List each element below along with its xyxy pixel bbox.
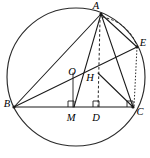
segment-ac — [101, 14, 133, 107]
segment-ad-altitude — [98, 20, 100, 107]
label-point-d: D — [91, 112, 100, 123]
label-point-h: H — [85, 72, 95, 83]
circle-geometry-figure: A B C E O H M D — [0, 0, 150, 158]
geometry-diagram: A B C E O H M D — [0, 0, 150, 158]
label-point-m: M — [66, 112, 77, 123]
vertex-dot-b — [12, 105, 15, 108]
vertex-dot-e — [136, 46, 139, 49]
segment-ec-dotted — [134, 47, 137, 107]
label-point-c: C — [136, 106, 144, 117]
label-point-o: O — [68, 66, 76, 77]
vertex-dot-c — [131, 105, 134, 108]
label-point-e: E — [139, 37, 147, 48]
vertex-dot-a — [99, 12, 102, 15]
label-point-b: B — [4, 98, 11, 109]
segment-hc — [98, 73, 133, 107]
label-point-a: A — [92, 0, 100, 11]
